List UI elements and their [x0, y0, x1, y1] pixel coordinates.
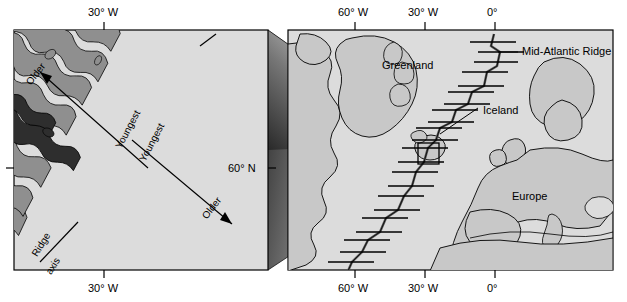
figure-root: 30° W 30° W 60° N Older Youngest Younges… — [0, 0, 627, 302]
map-label-mid-atlantic-ridge: Mid-Atlantic Ridge — [522, 45, 611, 57]
axis-label-right-top-60w: 60° W — [338, 6, 368, 18]
right-panel — [288, 22, 614, 278]
map-label-europe: Europe — [512, 190, 547, 202]
axis-label-left-60n: 60° N — [228, 162, 256, 174]
axis-label-left-top-30w: 30° W — [88, 6, 118, 18]
axis-label-right-bottom-30w: 30° W — [408, 282, 438, 294]
map-label-greenland: Greenland — [382, 59, 433, 71]
map-label-iceland: Iceland — [483, 104, 518, 116]
axis-label-left-bottom-30w: 30° W — [88, 282, 118, 294]
axis-label-right-bottom-60w: 60° W — [338, 282, 368, 294]
axis-label-right-bottom-0: 0° — [487, 282, 498, 294]
landmass-ireland — [490, 150, 507, 167]
axis-label-right-top-0: 0° — [487, 6, 498, 18]
axis-label-right-top-30w: 30° W — [408, 6, 438, 18]
